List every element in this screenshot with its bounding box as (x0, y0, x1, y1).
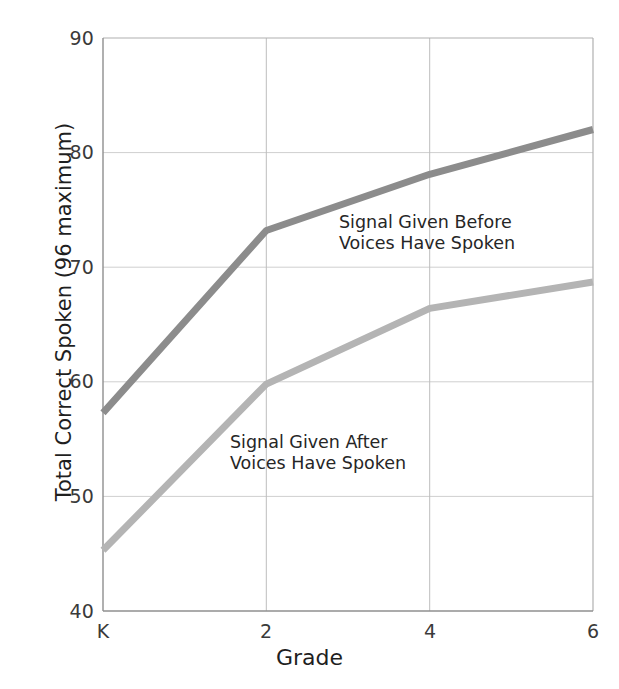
x-tick-label-k: K (83, 622, 123, 641)
plot-frame (103, 38, 593, 611)
x-tick-label-6: 6 (573, 622, 613, 641)
x-axis-title: Grade (0, 645, 619, 670)
line-chart: 90 80 70 60 50 40 K 2 4 6 Total Correct … (0, 0, 619, 689)
series-annotation-signal-before: Signal Given Before Voices Have Spoken (339, 212, 515, 254)
vertical-gridlines (266, 38, 429, 611)
series-annotation-signal-after: Signal Given After Voices Have Spoken (230, 432, 406, 474)
series-line-signal-before (103, 130, 593, 413)
plot-canvas (0, 0, 619, 689)
x-tick-label-2: 2 (246, 622, 286, 641)
y-tick-label-40: 40 (50, 602, 94, 621)
series-line-signal-after (103, 282, 593, 550)
y-axis-title: Total Correct Spoken (96 maximum) (52, 102, 76, 522)
y-tick-label-90: 90 (50, 29, 94, 48)
x-tick-label-4: 4 (410, 622, 450, 641)
